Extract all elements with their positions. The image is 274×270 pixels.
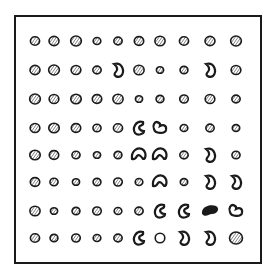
small-hatched-circle-icon xyxy=(156,67,163,74)
hatched-circle-icon xyxy=(49,95,59,104)
kidney-shape-icon xyxy=(114,64,123,77)
small-hatched-circle-icon xyxy=(93,234,101,241)
small-hatched-circle-icon xyxy=(93,152,100,159)
hatched-circle-icon xyxy=(30,94,41,104)
hatched-circle-icon xyxy=(179,37,188,45)
hatched-circle-icon xyxy=(155,36,165,45)
small-hatched-circle-icon xyxy=(180,124,188,131)
small-hatched-circle-icon xyxy=(93,37,101,44)
small-hatched-circle-icon xyxy=(135,178,143,185)
hatched-circle-icon xyxy=(71,94,81,104)
hatched-circle-icon xyxy=(71,124,80,133)
small-hatched-circle-icon xyxy=(114,37,122,45)
hatched-circle-icon xyxy=(30,178,39,187)
solid-blob-icon xyxy=(202,205,218,215)
hatched-circle-icon xyxy=(71,36,82,46)
curl-shape-icon xyxy=(132,148,146,159)
kidney-shape-icon xyxy=(206,176,215,189)
hatched-circle-icon xyxy=(205,36,215,45)
hatched-circle-icon xyxy=(49,65,60,75)
crescent-shape-icon xyxy=(155,205,165,218)
small-hatched-circle-icon xyxy=(50,234,58,241)
cell-grid xyxy=(0,0,274,270)
hatched-circle-icon xyxy=(49,36,59,45)
hatched-circle-icon xyxy=(30,234,39,242)
hatched-circle-icon xyxy=(30,65,40,74)
curl-shape-icon xyxy=(153,148,167,159)
small-hatched-circle-icon xyxy=(232,125,239,132)
small-hatched-circle-icon xyxy=(206,124,214,132)
kidney-shape-icon xyxy=(206,64,215,77)
small-hatched-circle-icon xyxy=(50,178,58,185)
hatched-circle-icon xyxy=(49,123,59,133)
crescent-shape-icon xyxy=(134,232,144,245)
hatched-circle-icon xyxy=(134,37,143,46)
small-hatched-circle-icon xyxy=(50,208,57,215)
hatched-circle-icon xyxy=(30,206,40,215)
small-hatched-circle-icon xyxy=(180,66,188,73)
small-hatched-circle-icon xyxy=(135,96,142,103)
hatched-circle-icon xyxy=(30,150,40,160)
kidney-shape-icon xyxy=(232,176,241,189)
kidney-shape-icon xyxy=(206,232,215,245)
empty-circle-icon xyxy=(155,233,165,243)
small-hatched-circle-icon xyxy=(232,151,240,158)
hatched-circle-icon xyxy=(113,124,122,132)
large-hatched-circle-icon xyxy=(230,232,243,244)
small-hatched-circle-icon xyxy=(135,207,143,215)
hatched-circle-icon xyxy=(231,36,242,46)
bean-shape-icon xyxy=(153,122,166,133)
small-hatched-circle-icon xyxy=(180,179,187,186)
crescent-shape-icon xyxy=(179,205,189,218)
small-hatched-circle-icon xyxy=(93,207,102,215)
small-hatched-circle-icon xyxy=(156,95,164,102)
hatched-circle-icon xyxy=(30,37,39,45)
hatched-circle-icon xyxy=(49,151,58,160)
small-hatched-circle-icon xyxy=(180,95,189,103)
hatched-circle-icon xyxy=(231,66,241,75)
hatched-circle-icon xyxy=(71,66,81,75)
small-hatched-circle-icon xyxy=(72,234,81,242)
kidney-shape-icon xyxy=(206,149,215,162)
hatched-circle-icon xyxy=(30,124,40,133)
small-hatched-circle-icon xyxy=(93,66,101,74)
small-hatched-circle-icon xyxy=(114,151,122,158)
hatched-circle-icon xyxy=(205,95,215,104)
small-hatched-circle-icon xyxy=(93,178,101,185)
small-hatched-circle-icon xyxy=(114,178,123,186)
small-hatched-circle-icon xyxy=(114,234,122,242)
hatched-circle-icon xyxy=(113,94,123,103)
small-hatched-circle-icon xyxy=(72,151,80,158)
small-hatched-circle-icon xyxy=(72,207,80,214)
small-hatched-circle-icon xyxy=(232,95,240,103)
small-hatched-circle-icon xyxy=(114,207,122,214)
small-hatched-circle-icon xyxy=(180,151,188,159)
small-hatched-circle-icon xyxy=(93,124,101,131)
crescent-shape-icon xyxy=(134,122,144,135)
hatched-circle-icon xyxy=(134,65,144,74)
bean-shape-icon xyxy=(229,205,242,216)
curl-shape-icon xyxy=(153,175,167,186)
kidney-shape-icon xyxy=(180,232,189,245)
hatched-circle-icon xyxy=(92,95,101,104)
small-hatched-circle-icon xyxy=(72,179,79,186)
